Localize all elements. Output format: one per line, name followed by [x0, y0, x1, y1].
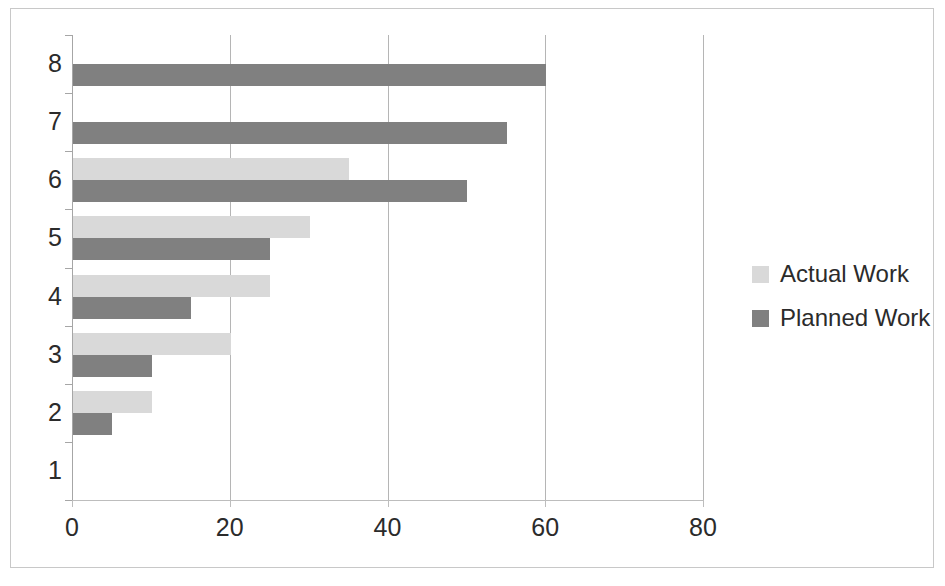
category-tick-0: [65, 35, 72, 36]
bar-actual-work-cat-3: [73, 333, 231, 355]
chart-root: 87654321 020406080 Actual WorkPlanned Wo…: [0, 0, 945, 586]
category-tick-4: [65, 268, 72, 269]
category-label-3: 3: [22, 342, 62, 367]
bar-planned-work-cat-4: [73, 297, 191, 319]
value-tick-0: [72, 500, 73, 507]
value-label-0: 0: [37, 515, 107, 540]
gridline-80: [703, 35, 704, 500]
legend-swatch-icon: [752, 310, 769, 327]
category-label-7: 7: [22, 109, 62, 134]
value-tick-40: [388, 500, 389, 507]
category-tick-1: [65, 93, 72, 94]
value-tick-80: [703, 500, 704, 507]
category-label-5: 5: [22, 225, 62, 250]
bar-planned-work-cat-7: [73, 122, 507, 144]
category-label-2: 2: [22, 400, 62, 425]
category-tick-8: [65, 500, 72, 501]
bar-planned-work-cat-8: [73, 64, 546, 86]
legend-item-planned-work[interactable]: Planned Work: [752, 296, 932, 340]
bar-planned-work-cat-5: [73, 238, 270, 260]
bar-planned-work-cat-2: [73, 413, 112, 435]
bar-actual-work-cat-2: [73, 391, 152, 413]
bar-actual-work-cat-6: [73, 158, 349, 180]
legend-label: Actual Work: [780, 262, 909, 286]
bar-actual-work-cat-4: [73, 275, 270, 297]
chart-legend: Actual WorkPlanned Work: [752, 252, 932, 340]
bar-actual-work-cat-5: [73, 216, 310, 238]
category-tick-labels: 87654321: [10, 35, 62, 500]
category-label-6: 6: [22, 167, 62, 192]
bar-planned-work-cat-3: [73, 355, 152, 377]
plot-area: [72, 35, 703, 500]
category-tick-7: [65, 442, 72, 443]
category-label-8: 8: [22, 51, 62, 76]
category-tick-3: [65, 209, 72, 210]
legend-label: Planned Work: [780, 306, 930, 330]
legend-item-actual-work[interactable]: Actual Work: [752, 252, 932, 296]
category-tick-2: [65, 151, 72, 152]
category-tick-5: [65, 326, 72, 327]
value-label-20: 20: [195, 515, 265, 540]
value-label-60: 60: [510, 515, 580, 540]
value-label-40: 40: [353, 515, 423, 540]
category-label-1: 1: [22, 458, 62, 483]
value-tick-60: [545, 500, 546, 507]
value-label-80: 80: [668, 515, 738, 540]
legend-swatch-icon: [752, 266, 769, 283]
category-tick-6: [65, 384, 72, 385]
value-tick-20: [230, 500, 231, 507]
category-label-4: 4: [22, 284, 62, 309]
bar-planned-work-cat-6: [73, 180, 467, 202]
